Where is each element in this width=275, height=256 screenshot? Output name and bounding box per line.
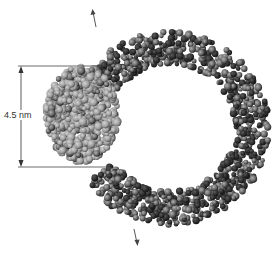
dna-atom: [235, 162, 242, 169]
dna-atom: [176, 40, 182, 46]
dna-atom: [142, 65, 148, 71]
dna-atom: [255, 84, 262, 91]
dna-atom: [209, 47, 216, 54]
protein-atom: [51, 134, 57, 140]
dna-atom: [159, 213, 165, 219]
dna-atom: [237, 59, 244, 66]
dna-atom: [128, 199, 133, 204]
dna-atom: [243, 172, 249, 178]
dna-atom: [141, 203, 146, 208]
protein-atom: [71, 147, 78, 154]
dna-atom: [129, 39, 136, 46]
dna-atom: [247, 167, 253, 173]
dna-atom: [234, 118, 240, 124]
protein-atom: [82, 81, 90, 89]
dna-atom: [171, 199, 178, 206]
dna-atom: [132, 189, 139, 196]
dna-atom: [221, 57, 228, 64]
dna-atom: [253, 112, 259, 118]
dna-atom: [189, 46, 196, 53]
dna-atom: [164, 188, 171, 195]
dna-atom: [176, 29, 183, 36]
dna-atom: [230, 154, 235, 159]
arrow-up-icon: [91, 9, 96, 15]
dna-atom: [131, 49, 136, 54]
dna-atom: [101, 62, 107, 68]
dna-atom: [152, 33, 159, 40]
dna-atom: [252, 152, 257, 157]
protein-atom: [98, 94, 103, 99]
dna-atom: [106, 171, 110, 175]
protein-atom: [78, 93, 84, 99]
protein-atom: [79, 118, 87, 126]
dna-atom: [246, 113, 251, 118]
dna-atom: [231, 195, 236, 200]
dna-atom: [227, 94, 233, 100]
scale-arrow-down-icon: [19, 160, 24, 167]
arrow-down-icon: [135, 240, 140, 247]
dna-atom: [163, 207, 170, 214]
dna-atom: [244, 160, 249, 165]
dna-atom: [142, 43, 147, 48]
dna-atom: [231, 180, 236, 185]
dna-atom: [194, 209, 199, 214]
protein-atom: [76, 152, 82, 158]
dna-atom: [113, 195, 119, 201]
protein-atom: [59, 147, 67, 155]
dna-atom: [138, 48, 145, 55]
dna-atom: [212, 200, 217, 205]
dna-atom: [250, 175, 257, 182]
dna-atom: [158, 221, 163, 226]
protein-atom: [68, 67, 73, 72]
dna-atom: [153, 39, 160, 46]
dna-atom: [133, 215, 139, 221]
dna-atom: [200, 203, 205, 208]
dna-atom: [239, 188, 246, 195]
dna-atom: [219, 199, 225, 205]
protein-atom: [95, 72, 102, 79]
dna-atom: [235, 137, 241, 143]
dna-atom: [246, 86, 251, 91]
protein-atom: [95, 89, 100, 94]
dna-atom: [120, 40, 126, 46]
dna-atom: [169, 211, 176, 218]
dna-atom: [141, 210, 147, 216]
protein-atom: [77, 157, 84, 164]
dna-atom: [185, 31, 192, 38]
protein-atom: [94, 108, 101, 115]
dna-atom: [226, 186, 232, 192]
figure-canvas: [0, 0, 275, 256]
protein-atom: [62, 98, 68, 104]
protein-atom: [77, 67, 85, 75]
protein-atom: [64, 92, 70, 98]
protein-atom: [94, 150, 101, 157]
dna-atom: [181, 62, 188, 69]
protein-atom: [108, 93, 114, 99]
dna-atom: [112, 203, 117, 208]
dna-atom: [218, 80, 223, 85]
dna-atom: [161, 195, 166, 200]
dna-atom: [224, 83, 232, 91]
protein-atom: [113, 119, 121, 127]
dna-atom: [262, 99, 268, 105]
dna-atom: [187, 63, 193, 69]
protein-atom: [82, 146, 88, 152]
dna-atom: [119, 170, 124, 175]
dna-atom: [115, 59, 120, 64]
dna-atom: [231, 172, 236, 177]
dna-atom: [115, 64, 122, 71]
dna-atom: [159, 34, 164, 39]
dna-atom: [185, 206, 192, 213]
dna-atom: [249, 90, 255, 96]
dna-atom: [177, 196, 182, 201]
dna-atom: [104, 194, 111, 201]
protein-atom: [47, 91, 54, 98]
dna-atom: [156, 47, 163, 54]
protein-atom: [107, 87, 112, 92]
scale-label: 4.5 nm: [3, 110, 33, 120]
dna-atom: [247, 101, 253, 107]
dna-atom: [225, 195, 232, 202]
protein-atom: [104, 82, 110, 88]
dna-atom: [126, 190, 130, 194]
protein-atom: [68, 127, 73, 132]
